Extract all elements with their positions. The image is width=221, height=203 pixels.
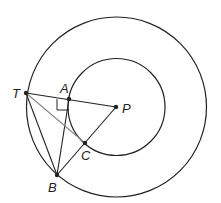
point-t [24,91,28,95]
point-p [114,105,118,109]
label-b: B [48,180,57,195]
diagram-canvas: TAPCB [0,0,221,203]
point-b [55,173,59,177]
label-p: P [122,101,131,116]
point-a [67,97,71,101]
label-a: A [59,81,69,96]
label-t: T [12,86,21,101]
label-c: C [81,148,91,163]
geometry-diagram: TAPCB [0,0,221,203]
point-c [83,141,87,145]
